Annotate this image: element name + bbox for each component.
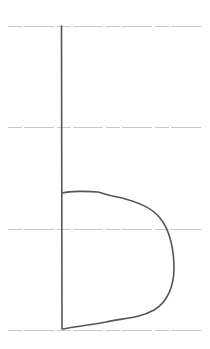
paper-background	[0, 0, 210, 349]
handwriting-canvas	[0, 0, 210, 349]
letter-b-stem	[62, 26, 63, 329]
